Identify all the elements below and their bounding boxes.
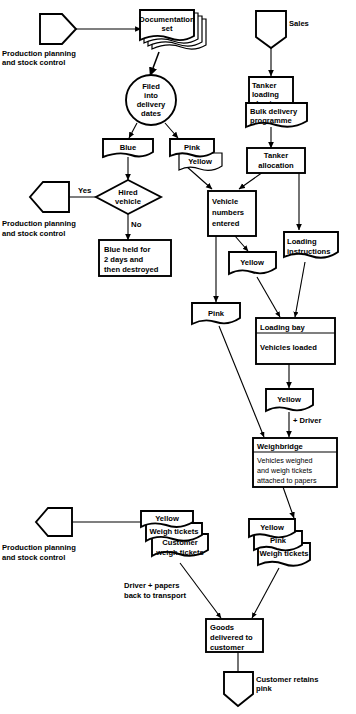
edge-vehnum-to-yellowmid <box>235 236 248 251</box>
label-yellow-right: Yellow <box>260 523 284 532</box>
label-filed-l4: dates <box>141 109 161 118</box>
label-cust-weightickets-l1: Customer <box>162 538 197 547</box>
node-weigh-tickets-right-stack[interactable]: Yellow Pink Weigh tickets <box>249 519 310 566</box>
edge-docset-to-filed <box>150 52 159 76</box>
label-weighbridge-l1: Vehicles weighed <box>257 456 313 465</box>
node-tanker-allocation[interactable]: Tanker allocation <box>247 148 305 173</box>
label-prodplan-mid-line1: Production planning <box>2 219 76 228</box>
node-customer-weigh-tickets-stack[interactable]: Yellow Weigh tickets Customer weigh tick… <box>141 511 208 557</box>
label-weighbridge-header: Weighbridge <box>257 442 303 451</box>
label-weightickets-left: Weigh tickets <box>150 527 199 536</box>
label-weighbridge-l3: attached to papers <box>257 476 317 485</box>
edge-filed-to-blue <box>129 123 137 138</box>
label-goods-l3: customer <box>210 643 244 652</box>
label-filed-l3: delivery <box>137 100 166 109</box>
node-documentation-set[interactable]: Documentation set <box>139 10 206 49</box>
edge-label-plus-driver: + Driver <box>293 416 322 425</box>
edge-label-driver-papers-l1: Driver + papers <box>124 581 180 590</box>
node-bulk-delivery-programme[interactable]: Bulk delivery programme <box>246 103 307 127</box>
node-pink-yellow-top[interactable]: Pink Yellow <box>170 139 222 170</box>
label-pink-right: Pink <box>270 536 287 545</box>
label-hired-l2: vehicle <box>115 197 141 206</box>
node-yellow-mid[interactable]: Yellow <box>229 252 276 274</box>
label-prodplan-top-line1: Production planning <box>2 49 76 58</box>
edge-custtickets-to-goods <box>180 563 221 618</box>
label-bulk-l2: programme <box>250 116 292 125</box>
label-weightickets-right: Weigh tickets <box>260 549 309 558</box>
node-production-planning-middle[interactable]: Production planning and stock control <box>2 182 76 238</box>
flowchart-svg: Production planning and stock control Do… <box>0 0 356 714</box>
node-sales[interactable]: Sales <box>256 11 309 48</box>
label-yellow-top: Yellow <box>188 157 212 166</box>
label-custretains-l2: pink <box>256 684 272 693</box>
label-filed-l2: into <box>144 91 158 100</box>
node-yellow-driver[interactable]: Yellow <box>266 389 313 411</box>
label-goods-l1: Goods <box>210 623 234 632</box>
edge-label-no: No <box>131 220 142 229</box>
node-loading-bay[interactable]: Loading bay Vehicles loaded <box>256 318 335 364</box>
node-goods-delivered[interactable]: Goods delivered to customer <box>206 619 263 652</box>
label-allocation-l2: allocation <box>258 161 294 170</box>
edge-weightickets-right-to-goods <box>252 568 279 618</box>
label-yellow-left: Yellow <box>155 514 179 523</box>
edge-loadinstr-to-loadingbay <box>295 262 305 317</box>
label-prodplan-top-line2: and stock control <box>2 58 65 67</box>
flowchart-canvas: Production planning and stock control Do… <box>0 0 356 714</box>
node-filed-into-delivery-dates[interactable]: Filed into delivery dates <box>126 75 176 125</box>
label-tankersheet-l2: loading <box>252 90 279 99</box>
label-blueheld-l1: Blue held for <box>104 245 150 254</box>
node-production-planning-top[interactable]: Production planning and stock control <box>2 14 76 67</box>
edge-label-driver-papers-l2: back to transport <box>124 591 186 600</box>
label-loadingbay-body: Vehicles loaded <box>260 343 317 352</box>
label-bulk-l1: Bulk delivery <box>250 107 298 116</box>
label-blueheld-l3: then destroyed <box>104 265 159 274</box>
label-blue: Blue <box>120 143 136 152</box>
label-loadinstr-l2: instructions <box>287 247 330 256</box>
label-docset-line1: Documentation <box>139 15 195 24</box>
label-prodplan-mid-line2: and stock control <box>2 229 65 238</box>
label-allocation-l1: Tanker <box>264 151 288 160</box>
node-blue-held[interactable]: Blue held for 2 days and then destroyed <box>99 240 171 276</box>
label-sales: Sales <box>289 19 309 28</box>
node-pink-mid[interactable]: Pink <box>192 303 240 324</box>
label-prodplan-bottom-line2: and stock control <box>2 553 65 562</box>
label-goods-l2: delivered to <box>210 633 253 642</box>
node-hired-vehicle[interactable]: Hired vehicle <box>96 180 161 214</box>
node-vehicle-numbers-entered[interactable]: Vehicle numbers entered <box>208 191 256 236</box>
label-tankersheet-l1: Tanker <box>252 81 276 90</box>
label-vehnum-l3: entered <box>212 219 240 228</box>
label-filed-l1: Filed <box>142 82 160 91</box>
label-prodplan-bottom-line1: Production planning <box>2 543 76 552</box>
label-cust-weightickets-l2: weigh tickets <box>155 548 204 557</box>
label-pink-mid: Pink <box>208 309 225 318</box>
node-customer-retains-pink[interactable]: Customer retains pink <box>224 672 318 706</box>
edge-filed-to-pink <box>165 123 178 138</box>
label-yellow-driver: Yellow <box>277 395 301 404</box>
label-vehnum-l1: Vehicle <box>212 197 238 206</box>
label-custretains-l1: Customer retains <box>256 675 318 684</box>
node-blue[interactable]: Blue <box>103 139 153 157</box>
edge-yellowmid-to-loadingbay <box>257 277 280 317</box>
node-weighbridge[interactable]: Weighbridge Vehicles weighed and weigh t… <box>253 438 337 487</box>
label-yellow-mid: Yellow <box>240 258 264 267</box>
label-loadingbay-header: Loading bay <box>260 323 305 332</box>
label-vehnum-l2: numbers <box>212 208 244 217</box>
node-production-planning-bottom[interactable]: Production planning and stock control <box>2 508 76 562</box>
label-hired-l1: Hired <box>118 188 138 197</box>
edge-label-yes: Yes <box>78 186 92 195</box>
label-blueheld-l2: 2 days and <box>104 255 144 264</box>
label-docset-line2: set <box>162 24 173 33</box>
node-loading-instructions[interactable]: Loading instructions <box>284 232 338 258</box>
edge-allocation-to-vehnum <box>239 172 263 189</box>
label-loadinstr-l1: Loading <box>287 237 317 246</box>
label-pink-top: Pink <box>184 143 201 152</box>
edge-weighbridge-to-yellowright <box>283 487 294 518</box>
label-weighbridge-l2: and weigh tickets <box>257 466 313 475</box>
